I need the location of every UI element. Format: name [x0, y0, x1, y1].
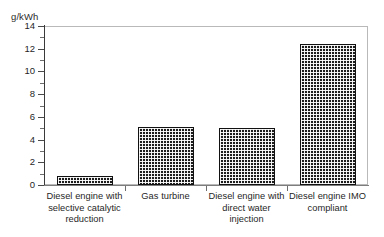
- y-axis-tick-major: [38, 185, 44, 186]
- y-axis-tick-major: [38, 162, 44, 163]
- bar-chart: g/kWh 02468101214 Diesel engine withsele…: [0, 0, 384, 237]
- x-axis-category-label: Diesel engine withdirect waterinjection: [206, 191, 287, 226]
- y-axis-tick-label: 2: [30, 157, 35, 167]
- y-axis-tick-label: 14: [24, 21, 35, 31]
- y-axis-tick-major: [38, 94, 44, 95]
- x-axis-category-label-line: Diesel engine with: [44, 191, 125, 203]
- x-axis-category-label-line: reduction: [44, 214, 125, 226]
- y-axis-tick-major: [38, 26, 44, 27]
- y-axis-tick-label: 4: [30, 135, 35, 145]
- y-axis-tick-minor: [40, 174, 44, 175]
- x-axis-category-label: Gas turbine: [125, 191, 206, 203]
- y-axis-tick-major: [38, 49, 44, 50]
- y-axis-tick-label: 10: [24, 66, 35, 76]
- y-axis-tick-major: [38, 117, 44, 118]
- x-axis-category-label-line: selective catalytic: [44, 203, 125, 215]
- y-axis-tick-label: 12: [24, 44, 35, 54]
- x-axis-category-label: Diesel engine IMOcompliant: [287, 191, 368, 214]
- y-axis-tick-minor: [40, 128, 44, 129]
- y-axis-line: [44, 25, 45, 186]
- y-axis-tick-major: [38, 71, 44, 72]
- bar: [138, 127, 194, 185]
- x-axis-category-label: Diesel engine withselective catalyticred…: [44, 191, 125, 226]
- y-axis-tick-minor: [40, 83, 44, 84]
- y-axis-tick-major: [38, 140, 44, 141]
- y-axis-tick-label: 6: [30, 112, 35, 122]
- bar: [300, 44, 356, 185]
- x-axis-category-label-line: direct water: [206, 203, 287, 215]
- bar: [219, 128, 275, 185]
- y-axis-tick-label: 8: [30, 89, 35, 99]
- y-axis-tick-minor: [40, 37, 44, 38]
- x-axis-category-label-line: compliant: [287, 203, 368, 215]
- y-axis-tick-label: 0: [30, 180, 35, 190]
- y-axis-tick-minor: [40, 106, 44, 107]
- bar: [57, 176, 113, 185]
- x-axis-category-label-line: injection: [206, 214, 287, 226]
- x-axis-category-label-line: Diesel engine IMO: [287, 191, 368, 203]
- x-axis-category-label-line: Gas turbine: [125, 191, 206, 203]
- y-axis-tick-minor: [40, 60, 44, 61]
- y-axis-tick-minor: [40, 151, 44, 152]
- x-axis-category-label-line: Diesel engine with: [206, 191, 287, 203]
